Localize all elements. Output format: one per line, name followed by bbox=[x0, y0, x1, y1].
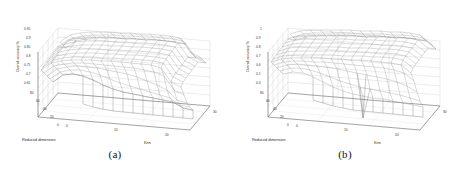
z-axis-ticks-a: 0.95 0.9 0.85 0.8 0.75 0.7 0.65 bbox=[24, 27, 31, 85]
y-tick-b-0: 0 bbox=[287, 123, 289, 127]
z-tick-b-2: 0.6 bbox=[256, 63, 261, 67]
x-axis-ticks-a: 0 10 20 30 bbox=[66, 110, 217, 137]
figure-container: 0.95 0.9 0.85 0.8 0.75 0.7 0.65 80 60 40… bbox=[0, 0, 460, 181]
x-tick-a-2: 20 bbox=[165, 133, 169, 137]
panel-b: 1 0.9 0.8 0.7 0.6 0.5 0.4 80 60 40 20 0 … bbox=[230, 0, 460, 181]
y-tick-a-0: 0 bbox=[57, 123, 59, 127]
x-axis-ticks-b: 0 10 20 30 bbox=[296, 110, 447, 137]
z-tick-b-4: 0.8 bbox=[256, 45, 261, 49]
x-axis-label-b: Knn bbox=[374, 141, 381, 145]
z-tick-b-3: 0.7 bbox=[256, 54, 261, 58]
panel-caption-a: (a) bbox=[0, 148, 230, 160]
z-tick-a-6: 0.95 bbox=[24, 27, 31, 31]
z-tick-a-5: 0.9 bbox=[26, 36, 31, 40]
y-tick-a-3: 60 bbox=[36, 99, 40, 103]
z-axis-ticks-b: 1 0.9 0.8 0.7 0.6 0.5 0.4 bbox=[256, 27, 262, 85]
plot-svg-b: 1 0.9 0.8 0.7 0.6 0.5 0.4 80 60 40 20 0 … bbox=[230, 0, 460, 150]
x-tick-b-3: 30 bbox=[443, 110, 447, 114]
y-tick-b-3: 60 bbox=[266, 99, 270, 103]
y-tick-b-4: 80 bbox=[260, 91, 264, 95]
y-axis-label-b: Reduced dimension bbox=[252, 138, 286, 142]
x-tick-b-1: 10 bbox=[344, 128, 348, 132]
y-axis-label-a: Reduced dimension bbox=[22, 138, 56, 142]
y-tick-a-1: 20 bbox=[50, 115, 54, 119]
z-axis-label-b: Overall accuracy % bbox=[246, 40, 250, 72]
z-tick-b-1: 0.5 bbox=[256, 72, 261, 76]
z-tick-a-4: 0.85 bbox=[24, 45, 31, 49]
x-tick-a-0: 0 bbox=[66, 124, 68, 128]
z-tick-b-5: 0.9 bbox=[256, 36, 261, 40]
plot-svg-a: 0.95 0.9 0.85 0.8 0.75 0.7 0.65 80 60 40… bbox=[0, 0, 230, 150]
y-tick-a-4: 80 bbox=[30, 91, 34, 95]
y-tick-a-2: 40 bbox=[43, 107, 47, 111]
surface-plot-a: 0.95 0.9 0.85 0.8 0.75 0.7 0.65 80 60 40… bbox=[0, 0, 230, 150]
y-axis-ticks-a: 80 60 40 20 0 bbox=[30, 91, 59, 127]
x-axis-label-a: Knn bbox=[144, 141, 151, 145]
mesh-edge-drop-a bbox=[53, 74, 193, 119]
panel-caption-b: (b) bbox=[230, 148, 460, 160]
z-axis-label-a: Overall accuracy % bbox=[16, 40, 20, 72]
z-tick-a-2: 0.75 bbox=[24, 63, 31, 67]
surface-plot-b: 1 0.9 0.8 0.7 0.6 0.5 0.4 80 60 40 20 0 … bbox=[230, 0, 460, 150]
z-tick-b-6: 1 bbox=[260, 27, 262, 31]
x-tick-b-0: 0 bbox=[296, 124, 298, 128]
z-tick-b-0: 0.4 bbox=[256, 81, 261, 85]
y-tick-b-2: 40 bbox=[273, 107, 277, 111]
mesh-surface-b bbox=[271, 30, 436, 107]
x-tick-a-1: 10 bbox=[114, 128, 118, 132]
x-tick-b-2: 20 bbox=[395, 133, 399, 137]
z-tick-a-3: 0.8 bbox=[26, 54, 31, 58]
y-axis-ticks-b: 80 60 40 20 0 bbox=[260, 91, 289, 127]
panel-a: 0.95 0.9 0.85 0.8 0.75 0.7 0.65 80 60 40… bbox=[0, 0, 230, 181]
axes-grid-b bbox=[268, 28, 440, 130]
z-tick-a-1: 0.7 bbox=[26, 72, 31, 76]
mesh-surface-a bbox=[41, 32, 206, 110]
x-tick-a-3: 30 bbox=[213, 110, 217, 114]
z-tick-a-0: 0.65 bbox=[24, 81, 31, 85]
y-tick-b-1: 20 bbox=[280, 115, 284, 119]
